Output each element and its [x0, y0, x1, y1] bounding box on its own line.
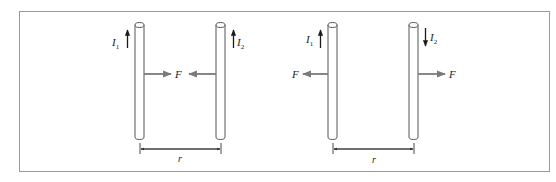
wire-rod-1	[135, 23, 144, 140]
force-label: F	[174, 68, 182, 80]
wire-rod-1	[328, 23, 337, 140]
figure-frame	[20, 12, 550, 172]
force-label: F	[291, 68, 299, 80]
wire-rod-2	[216, 23, 225, 140]
wire-rod-2	[409, 23, 418, 140]
distance-label-r: r	[372, 154, 376, 165]
magnetic-force-parallel-wires-diagram: I1 I2 F r I1	[0, 0, 556, 182]
distance-label-r: r	[178, 153, 182, 164]
force-label: F	[448, 68, 456, 80]
